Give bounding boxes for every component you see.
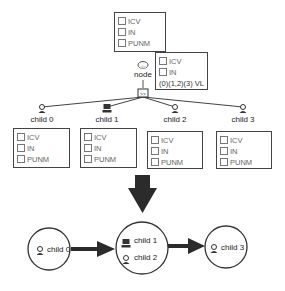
computer-icon — [103, 104, 112, 113]
group-1-member-0: child 1 — [134, 236, 157, 245]
checkbox-label: ICV — [161, 136, 174, 145]
node-label: node — [133, 70, 153, 79]
arrow-group-1-to-2 — [168, 238, 205, 254]
checkbox-label: PUNM — [27, 155, 49, 164]
child-box-1: ICV IN PUNM — [80, 128, 137, 168]
checkbox-row: ICV — [17, 132, 66, 142]
child-label-1: child 1 — [87, 115, 127, 124]
checkbox-row: ICV — [220, 135, 268, 145]
checkbox-row: IN — [151, 146, 199, 156]
node-box: ICV IN (0)(1,2)(3) VL — [155, 52, 208, 90]
checkbox-row: ICV — [151, 135, 199, 145]
checkbox-row: IN — [118, 27, 162, 37]
checkbox-row: PUNM — [151, 157, 199, 167]
child-box-3: ICV IN PUNM — [216, 131, 272, 169]
checkbox-label: PUNM — [94, 155, 116, 164]
checkbox-label: IN — [230, 147, 238, 156]
checkbox-icv[interactable] — [84, 133, 92, 141]
checkbox-label: ICV — [169, 57, 182, 66]
computer-icon — [122, 239, 131, 248]
checkbox-icv[interactable] — [159, 57, 167, 65]
arrow-group-0-to-1 — [71, 241, 115, 257]
checkbox-label: IN — [169, 68, 177, 77]
checkbox-in[interactable] — [159, 68, 167, 76]
checkbox-row: ICV — [84, 132, 133, 142]
checkbox-row: IN — [17, 143, 66, 153]
checkbox-row: PUNM — [220, 157, 268, 167]
user-icon — [240, 105, 247, 114]
checkbox-label: IN — [94, 144, 102, 153]
group-circle-1 — [116, 222, 168, 274]
svg-text:>>: >> — [140, 91, 146, 97]
checkbox-label: PUNM — [128, 39, 150, 48]
checkbox-label: ICV — [128, 17, 141, 26]
checkbox-in[interactable] — [17, 144, 25, 152]
checkbox-in[interactable] — [84, 144, 92, 152]
checkbox-icv[interactable] — [151, 136, 159, 144]
checkbox-in[interactable] — [118, 28, 126, 36]
child-label-2: child 2 — [155, 115, 195, 124]
checkbox-label: IN — [161, 147, 169, 156]
checkbox-icv[interactable] — [220, 136, 228, 144]
checkbox-label: PUNM — [161, 158, 183, 167]
edge-child-0 — [42, 97, 143, 107]
checkbox-row: PUNM — [84, 154, 133, 164]
checkbox-label: PUNM — [230, 158, 252, 167]
checkbox-punm[interactable] — [84, 155, 92, 163]
switch-icon: >> — [138, 89, 148, 97]
transform-arrow-icon — [128, 175, 157, 213]
checkbox-row: ICV — [159, 56, 204, 66]
user-icon — [39, 105, 46, 114]
child-label-0: child 0 — [22, 115, 62, 124]
cloud-icon — [138, 62, 148, 69]
vl-text: (0)(1,2)(3) VL — [159, 78, 204, 88]
checkbox-row: IN — [159, 67, 204, 77]
checkbox-row: ICV — [118, 16, 162, 26]
checkbox-row: PUNM — [17, 154, 66, 164]
top-box: ICV IN PUNM — [114, 12, 166, 52]
group-2-member-0: child 3 — [221, 243, 244, 252]
child-box-2: ICV IN PUNM — [147, 131, 203, 169]
checkbox-punm[interactable] — [220, 158, 228, 166]
group-1-member-1: child 2 — [134, 253, 157, 262]
checkbox-in[interactable] — [220, 147, 228, 155]
checkbox-punm[interactable] — [118, 39, 126, 47]
checkbox-icv[interactable] — [118, 17, 126, 25]
checkbox-icv[interactable] — [17, 133, 25, 141]
child-box-0: ICV IN PUNM — [13, 128, 70, 168]
checkbox-label: ICV — [27, 133, 40, 142]
checkbox-label: ICV — [230, 136, 243, 145]
group-0-member-0: child 0 — [47, 245, 70, 254]
checkbox-punm[interactable] — [151, 158, 159, 166]
user-icon — [172, 105, 179, 114]
checkbox-label: IN — [27, 144, 35, 153]
checkbox-row: IN — [220, 146, 268, 156]
child-label-3: child 3 — [223, 115, 263, 124]
checkbox-row: PUNM — [118, 38, 162, 48]
checkbox-label: ICV — [94, 133, 107, 142]
checkbox-in[interactable] — [151, 147, 159, 155]
checkbox-row: IN — [84, 143, 133, 153]
checkbox-punm[interactable] — [17, 155, 25, 163]
checkbox-label: IN — [128, 28, 136, 37]
